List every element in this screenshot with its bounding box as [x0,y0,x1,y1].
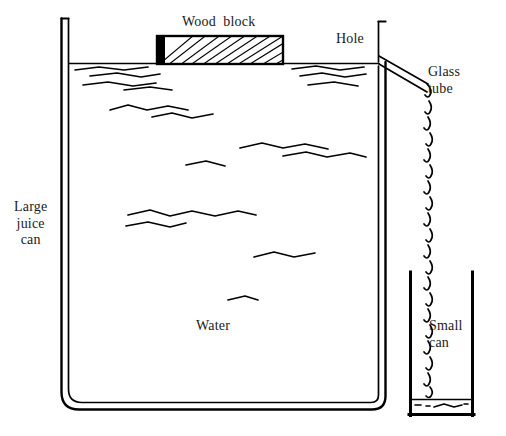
diagram-canvas: Wood block Hole Glass tube Large juice c… [0,0,506,436]
wood-block [150,30,300,82]
label-glass-tube: Glass tube [428,64,460,97]
water-ripple-marks [75,66,366,300]
small-can-water-marks [415,404,468,407]
label-water: Water [196,318,230,335]
water-stream [424,101,432,398]
label-hole: Hole [336,31,364,48]
wood-block-end-cap [157,36,165,64]
label-large-juice-can: Large juice can [14,199,47,249]
glass-tube [379,56,431,97]
label-wood-block: Wood block [182,14,255,31]
large-can-inner-wall [69,19,379,403]
label-small-can: Small can [429,318,463,351]
